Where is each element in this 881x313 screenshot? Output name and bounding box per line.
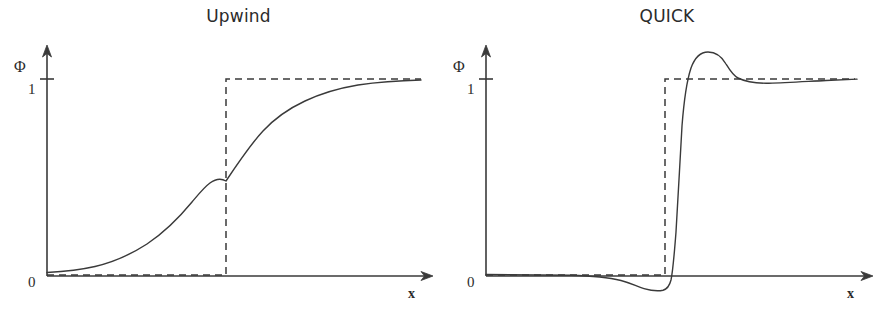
origin-label-upwind: 0 xyxy=(28,274,36,291)
x-axis-label-upwind: x xyxy=(408,286,415,302)
panel-quick: QUICK Φ 1 0 x xyxy=(441,0,881,313)
panel-upwind: Upwind Φ 1 0 x xyxy=(0,0,441,313)
quick-solution-curve xyxy=(486,52,857,291)
y-axis-label-quick: Φ xyxy=(453,58,465,76)
plot-quick xyxy=(441,0,881,313)
origin-label-quick: 0 xyxy=(467,274,475,291)
plot-upwind xyxy=(0,0,441,313)
exact-step-curve-upwind xyxy=(47,79,421,275)
exact-step-curve-quick xyxy=(486,79,855,275)
upwind-solution-curve xyxy=(47,80,421,273)
x-axis-label-quick: x xyxy=(847,286,854,302)
y-tick-label-one-upwind: 1 xyxy=(28,81,36,98)
y-axis-label-upwind: Φ xyxy=(14,58,26,76)
figure-root: Upwind Φ 1 0 x QUICK xyxy=(0,0,881,313)
y-tick-label-one-quick: 1 xyxy=(467,81,475,98)
